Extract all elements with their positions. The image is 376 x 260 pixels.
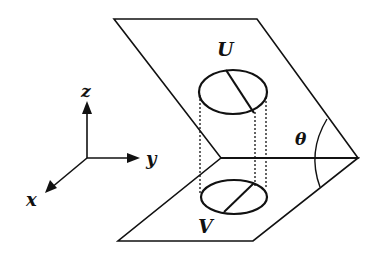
upper-plane bbox=[114, 19, 358, 158]
dihedral-diagram: U V θ z y x bbox=[0, 0, 376, 260]
lower-ellipse-diameter bbox=[224, 183, 254, 212]
label-x: x bbox=[25, 189, 37, 210]
lower-ellipse bbox=[201, 180, 267, 214]
z-arrowhead-icon bbox=[82, 101, 92, 114]
label-U: U bbox=[217, 38, 235, 60]
label-V: V bbox=[198, 215, 215, 237]
y-arrowhead-icon bbox=[127, 153, 140, 163]
label-theta: θ bbox=[295, 129, 307, 149]
label-y: y bbox=[145, 148, 158, 169]
upper-ellipse bbox=[199, 70, 267, 114]
label-z: z bbox=[80, 81, 91, 101]
angle-arc bbox=[315, 119, 327, 187]
upper-ellipse-diameter bbox=[226, 70, 254, 113]
x-arrowhead-icon bbox=[45, 180, 57, 193]
x-axis bbox=[51, 158, 87, 188]
coordinate-axes bbox=[51, 108, 136, 188]
